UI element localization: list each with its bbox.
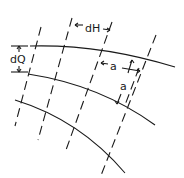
equipotential-line-1 (15, 27, 41, 126)
equipotential-line-3 (66, 22, 112, 150)
a-vertical-label: a (120, 80, 127, 93)
equipotential-line-4 (100, 35, 156, 178)
equipotential-line-5 (125, 68, 139, 105)
dQ-label: dQ (10, 53, 26, 66)
equipotential-line-2 (38, 18, 72, 140)
streamline-2 (28, 74, 155, 125)
dH-label: dH (85, 22, 100, 35)
flow-net-diagram: dH dQ a a (0, 0, 184, 178)
a-horizontal-label: a (110, 60, 117, 73)
streamline-3 (15, 100, 125, 173)
